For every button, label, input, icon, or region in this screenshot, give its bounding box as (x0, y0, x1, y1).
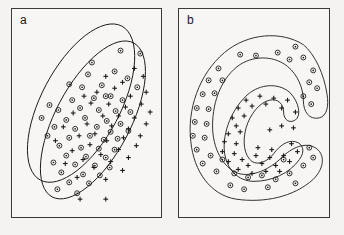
panel-b-plot (179, 9, 329, 217)
circle-marker (311, 68, 316, 73)
circle-marker (190, 133, 195, 138)
circle-marker (108, 129, 113, 134)
plus-marker (89, 101, 94, 106)
plus-marker (269, 147, 274, 152)
circle-marker (206, 78, 211, 83)
plus-marker (230, 116, 235, 121)
plus-marker (234, 123, 239, 128)
circle-marker (81, 172, 86, 177)
circle-marker (206, 107, 211, 112)
plus-marker (289, 141, 294, 146)
circle-marker (228, 183, 233, 188)
circle-marker (79, 145, 84, 150)
plus-marker (82, 94, 87, 99)
plus-marker (61, 124, 66, 129)
circle-marker (309, 102, 314, 107)
plus-marker (254, 153, 259, 158)
plus-marker (70, 148, 75, 153)
plus-marker (250, 171, 255, 176)
plus-marker (109, 123, 114, 128)
circle-marker (39, 115, 44, 120)
plus-marker (88, 142, 93, 147)
plus-marker (250, 104, 255, 109)
circle-marker (200, 161, 205, 166)
plus-marker (98, 152, 103, 157)
circle-marker (113, 109, 118, 114)
circle-marker (83, 115, 88, 120)
plus-marker (112, 86, 117, 91)
circle-marker (59, 170, 64, 175)
plus-marker (287, 159, 292, 164)
circle-marker (96, 108, 101, 113)
circle-marker (89, 60, 94, 65)
circle-marker (67, 135, 72, 140)
circle-marker (275, 50, 280, 55)
circle-marker (202, 135, 207, 140)
circle-marker (99, 83, 104, 88)
series-circle-marker (190, 44, 319, 192)
plus-marker (291, 125, 296, 130)
plus-marker (144, 90, 149, 95)
circle-marker (64, 153, 69, 158)
plus-marker (81, 157, 86, 162)
circle-marker (287, 57, 292, 62)
plus-marker (236, 167, 241, 172)
circle-marker (52, 124, 57, 129)
plus-marker (144, 122, 149, 127)
circle-marker (70, 98, 75, 103)
plus-marker (126, 155, 131, 160)
plus-marker (103, 197, 108, 202)
series-plus-marker (220, 94, 300, 176)
circle-marker (103, 94, 108, 99)
circle-marker (47, 103, 52, 108)
circle-marker (301, 55, 306, 60)
circle-marker (192, 119, 197, 124)
plus-marker (226, 131, 231, 136)
plus-marker (236, 106, 241, 111)
circle-marker (87, 133, 92, 138)
plus-marker (71, 111, 76, 116)
circle-marker (108, 94, 113, 99)
circle-marker (73, 126, 78, 131)
plus-marker (78, 197, 83, 202)
boundary-outer-crescent (190, 36, 328, 201)
plus-marker (77, 133, 82, 138)
circle-marker (208, 153, 213, 158)
plus-marker (75, 175, 80, 180)
panel-a-plot (12, 9, 161, 217)
circle-marker (259, 173, 264, 178)
circle-marker (84, 154, 89, 159)
plus-marker (53, 138, 58, 143)
circle-marker (246, 175, 251, 180)
figure-container: a b (0, 0, 344, 235)
circle-marker (307, 80, 312, 85)
plus-marker (234, 141, 239, 146)
circle-marker (293, 181, 298, 186)
circle-marker (115, 136, 120, 141)
circle-marker (78, 106, 83, 111)
circle-marker (64, 117, 69, 122)
circle-marker (96, 146, 101, 151)
boundary-inner-crescent (224, 86, 303, 182)
plus-marker (85, 122, 90, 127)
circle-marker (293, 44, 298, 49)
circle-marker (51, 160, 56, 165)
plus-marker (232, 151, 237, 156)
circle-marker (57, 143, 62, 148)
circle-marker (120, 98, 125, 103)
plus-marker (293, 110, 298, 115)
circle-marker (194, 147, 199, 152)
panel-a: a (11, 8, 162, 218)
circle-marker (104, 118, 109, 123)
circle-marker (135, 85, 140, 90)
plus-marker (222, 139, 227, 144)
circle-marker (56, 108, 61, 113)
circle-marker (55, 187, 60, 192)
circle-marker (128, 110, 133, 115)
plus-marker (120, 80, 125, 85)
plus-marker (240, 157, 245, 162)
plus-marker (295, 149, 300, 154)
plus-marker (103, 177, 108, 182)
plus-marker (63, 161, 68, 166)
circle-marker (238, 52, 243, 57)
